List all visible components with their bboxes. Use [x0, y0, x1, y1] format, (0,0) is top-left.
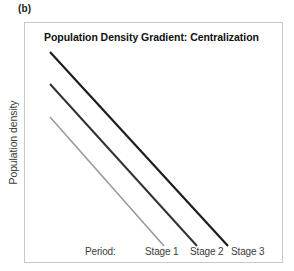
period-label: Period: [85, 246, 116, 258]
stage-3-label: Stage 3 [231, 246, 264, 258]
series-group [50, 52, 228, 246]
panel-letter: (b) [18, 3, 31, 15]
stage-1-label: Stage 1 [145, 246, 178, 258]
stage-2-label: Stage 2 [190, 246, 223, 258]
chart-plot-area [24, 22, 283, 263]
y-axis-label: Population density [6, 22, 20, 263]
chart-line-1 [50, 117, 164, 246]
chart-line-2 [50, 84, 197, 246]
